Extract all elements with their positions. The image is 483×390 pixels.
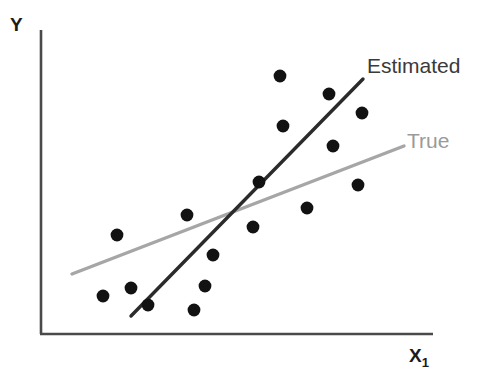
data-point [274,70,287,83]
y-axis-label: Y [10,14,23,36]
data-point [253,176,266,189]
data-point [181,209,194,222]
data-point [199,280,212,293]
x-axis-label-subscript: 1 [422,355,429,370]
data-point [356,107,369,120]
data-point [323,88,336,101]
data-point [352,179,365,192]
data-point [125,282,138,295]
data-point [301,202,314,215]
data-point [207,249,220,262]
scatter-plot-figure: Y X1 Estimated True [0,0,483,390]
data-point [277,120,290,133]
true-line-series [72,146,404,274]
data-point [111,229,124,242]
estimated-series-label: Estimated [367,54,460,78]
x-axis-label-base: X [409,345,422,366]
estimated-line-series [131,79,363,316]
estimated-regression-line [131,79,363,316]
true-series-label: True [407,129,449,153]
data-point [142,299,155,312]
data-point [327,140,340,153]
data-point [188,304,201,317]
data-point [97,290,110,303]
data-points-group [97,70,369,317]
data-point [247,221,260,234]
x-axis-label: X1 [409,345,429,367]
true-regression-line [72,146,404,274]
